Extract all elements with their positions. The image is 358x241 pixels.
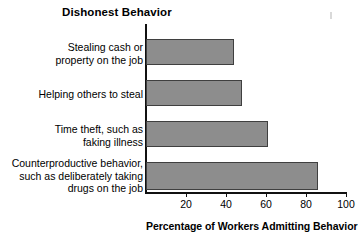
bar-chart: Dishonest Behavior 20406080100 Stealing … [0,0,358,241]
x-tick-80 [306,192,307,197]
category-label-1: Helping others to steal [39,88,143,101]
chart-title: Dishonest Behavior [62,6,172,18]
scan-artifact [330,12,332,19]
x-tick-60 [266,192,267,197]
bar-3 [146,162,318,190]
x-tick-100 [346,192,347,197]
x-tick-20 [186,192,187,197]
x-axis-line [145,192,346,194]
x-tick-label-100: 100 [337,198,355,210]
x-axis-title: Percentage of Workers Admitting Behavior [146,220,347,232]
x-tick-label-80: 80 [300,198,312,210]
x-tick-40 [226,192,227,197]
bar-1 [146,80,242,106]
x-tick-label-40: 40 [220,198,232,210]
x-tick-label-20: 20 [180,198,192,210]
category-label-2: Time theft, such as faking illness [55,123,143,148]
bar-0 [146,39,234,65]
bar-2 [146,121,268,147]
category-label-0: Stealing cash or property on the job [55,41,143,66]
category-label-3: Counterproductive behavior, such as deli… [12,157,143,195]
x-tick-label-60: 60 [260,198,272,210]
